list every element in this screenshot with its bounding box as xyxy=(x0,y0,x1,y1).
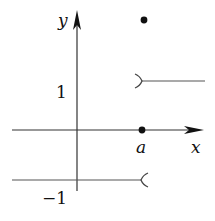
x-axis-label: x xyxy=(191,137,201,157)
right-branch-open-end xyxy=(135,74,142,88)
y-axis-label: y xyxy=(57,10,68,30)
tick-label-1: 1 xyxy=(56,82,67,102)
isolated-point xyxy=(141,17,148,24)
left-branch-open-end xyxy=(141,173,148,187)
tick-label-a: a xyxy=(136,137,146,157)
axis-point xyxy=(139,127,146,134)
graph-canvas: y 1 a x −1 xyxy=(0,0,215,221)
tick-label-minus-1: −1 xyxy=(42,188,67,208)
function-graph: y 1 a x −1 xyxy=(0,0,215,221)
